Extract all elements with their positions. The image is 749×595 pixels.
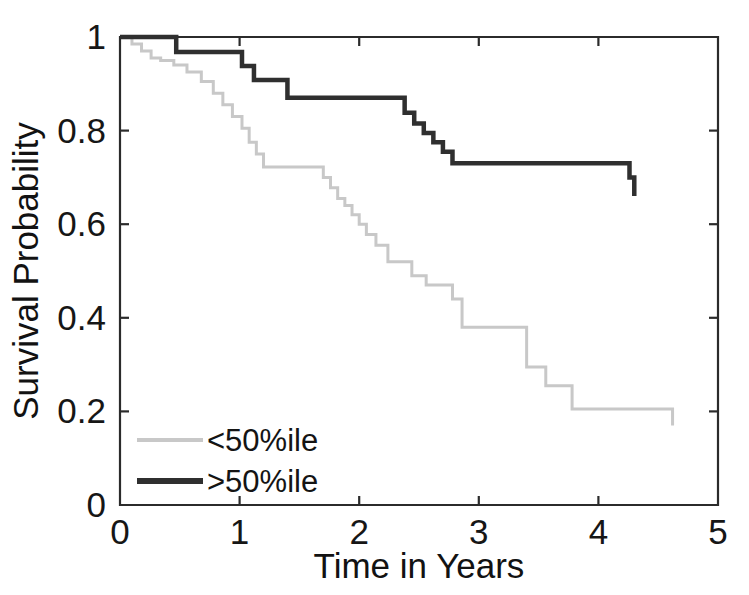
legend-label-below-median: <50%ile [207, 423, 318, 458]
x-tick-label: 1 [230, 512, 249, 551]
legend-label-above-median: >50%ile [207, 464, 318, 499]
x-tick-label: 5 [708, 512, 727, 551]
y-tick-label: 0.8 [57, 111, 106, 150]
y-tick-label: 0.2 [57, 391, 106, 430]
x-tick-label: 0 [110, 512, 129, 551]
chart-legend: <50%ile>50%ile [137, 423, 318, 499]
data-series-group [120, 37, 673, 425]
survival-curve-figure: 012345 00.20.40.60.81 <50%ile>50%ile Tim… [0, 0, 749, 595]
series-line-above-median [120, 37, 634, 196]
y-tick-labels: 00.20.40.60.81 [57, 17, 106, 524]
y-tick-label: 0 [87, 485, 106, 524]
chart-canvas: 012345 00.20.40.60.81 <50%ile>50%ile Tim… [0, 0, 749, 595]
x-axis-title: Time in Years [314, 546, 525, 585]
y-tick-label: 0.6 [57, 204, 106, 243]
x-tick-label: 4 [589, 512, 608, 551]
y-axis-title: Survival Probability [6, 122, 45, 420]
y-tick-label: 1 [87, 17, 106, 56]
series-line-below-median [120, 37, 673, 425]
y-tick-label: 0.4 [57, 298, 106, 337]
